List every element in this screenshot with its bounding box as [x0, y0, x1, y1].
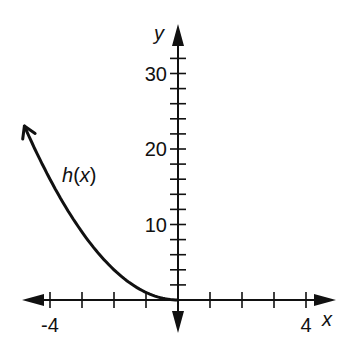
x-axis-label: x	[321, 308, 333, 330]
x-tick-label: 4	[300, 314, 311, 336]
tick-labels: xy-44102030h(x)	[41, 22, 333, 336]
y-axis-label: y	[152, 22, 165, 44]
chart: xy-44102030h(x)	[0, 0, 348, 355]
series-label: h(x)	[62, 164, 96, 186]
y-axis-down-arrow	[172, 311, 184, 333]
x-axis-right-arrow	[314, 294, 336, 306]
y-axis-up-arrow	[172, 24, 184, 46]
x-axis-left-arrow	[22, 294, 44, 306]
y-tick-label: 30	[145, 63, 167, 85]
y-tick-label: 10	[145, 214, 167, 236]
x-tick-label: -4	[41, 314, 59, 336]
y-tick-label: 20	[145, 138, 167, 160]
